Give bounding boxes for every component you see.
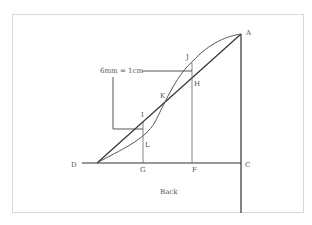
diagonal-line <box>97 34 241 163</box>
label-i: I <box>141 111 144 119</box>
scale-note: 6mm = 1cm <box>100 67 143 75</box>
diagram-title: Back <box>160 188 178 196</box>
label-l: L <box>145 141 150 149</box>
label-h: H <box>194 80 200 88</box>
label-c: C <box>245 161 250 169</box>
label-d: D <box>71 161 77 169</box>
label-j: J <box>185 53 189 61</box>
label-f: F <box>192 166 197 174</box>
scale-pointer-lower <box>113 77 143 129</box>
label-g: G <box>140 166 146 174</box>
label-k: K <box>160 92 166 100</box>
frame <box>13 15 304 213</box>
label-a: A <box>245 29 252 37</box>
pattern-diagram: A C D G F K J H I L 6mm = 1cm Back <box>0 0 312 225</box>
